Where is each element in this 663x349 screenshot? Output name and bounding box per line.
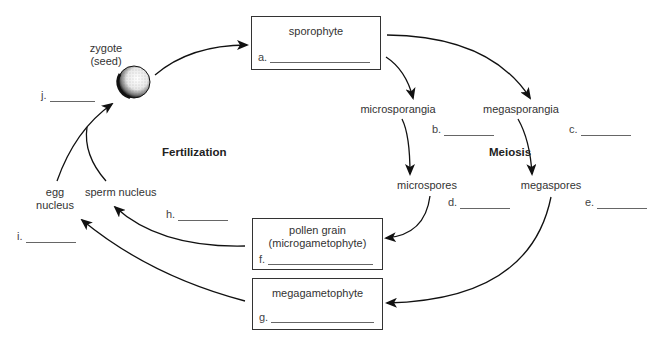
blank-letter-h: h. xyxy=(166,208,175,220)
answer-blank-i[interactable]: i. xyxy=(17,230,76,243)
pollen-grain-title: pollen grain xyxy=(253,224,382,237)
megasporangia-label: megasporangia xyxy=(483,103,559,116)
egg-nucleus-label: egg nucleus xyxy=(36,186,74,212)
sperm-nucleus-label: sperm nucleus xyxy=(85,186,157,199)
answer-line-d[interactable] xyxy=(460,198,510,209)
arrow-megagametophyte-to-egg xyxy=(82,220,245,301)
microsporangia-label: microsporangia xyxy=(360,103,435,116)
arrow-sperm-to-zygote xyxy=(86,127,106,181)
blank-letter-b: b. xyxy=(432,123,441,135)
arrow-sporophyte-to-megasporangia xyxy=(387,35,530,98)
arrow-sporophyte-to-microsporangia xyxy=(386,57,413,98)
answer-line-f[interactable] xyxy=(268,254,373,265)
megaspores-label: megaspores xyxy=(521,179,582,192)
answer-blank-e[interactable]: e. xyxy=(585,196,647,209)
answer-line-i[interactable] xyxy=(26,232,76,243)
answer-line-j[interactable] xyxy=(50,91,95,102)
answer-blank-j[interactable]: j. xyxy=(41,89,95,102)
blank-letter-a: a. xyxy=(258,51,267,63)
blank-letter-c: c. xyxy=(569,123,578,135)
megagametophyte-box: megagametophyte g. xyxy=(252,278,383,330)
pollen-grain-box: pollen grain (microgametophyte) f. xyxy=(252,218,383,270)
arrow-egg-to-zygote xyxy=(57,104,112,181)
answer-line-g[interactable] xyxy=(271,312,374,323)
answer-line-h[interactable] xyxy=(178,210,228,221)
answer-blank-h[interactable]: h. xyxy=(166,208,228,221)
arrow-microsporangia-to-microspores xyxy=(402,119,410,174)
meiosis-label: Meiosis xyxy=(489,146,531,159)
microgametophyte-subtitle: (microgametophyte) xyxy=(253,237,382,250)
sporophyte-box: sporophyte a. xyxy=(251,16,381,70)
answer-line-c[interactable] xyxy=(581,125,631,136)
answer-blank-c[interactable]: c. xyxy=(569,123,631,136)
egg-nucleus-line2: nucleus xyxy=(36,199,74,212)
blank-letter-i: i. xyxy=(17,230,23,242)
answer-blank-b[interactable]: b. xyxy=(432,123,494,136)
zygote-seed-icon xyxy=(118,66,150,98)
megagametophyte-title: megagametophyte xyxy=(253,287,382,300)
answer-blank-d[interactable]: d. xyxy=(448,196,510,209)
blank-letter-d: d. xyxy=(448,196,457,208)
answer-line-a[interactable] xyxy=(270,52,370,63)
zygote-label-line2: (seed) xyxy=(90,55,122,68)
blank-letter-j: j. xyxy=(41,89,47,101)
answer-line-b[interactable] xyxy=(444,125,494,136)
fertilization-label: Fertilization xyxy=(162,146,227,159)
sporophyte-title: sporophyte xyxy=(252,25,380,38)
zygote-label-line1: zygote xyxy=(90,42,122,55)
egg-nucleus-line1: egg xyxy=(36,186,74,199)
answer-blank-f[interactable]: f. xyxy=(259,253,373,265)
arrow-zygote-to-sporophyte xyxy=(155,45,247,75)
answer-blank-g[interactable]: g. xyxy=(259,311,374,323)
zygote-label: zygote (seed) xyxy=(90,42,122,68)
blank-letter-g: g. xyxy=(259,311,268,323)
answer-blank-a[interactable]: a. xyxy=(258,51,370,63)
blank-letter-f: f. xyxy=(259,253,265,265)
arrow-megaspores-to-megagametophyte xyxy=(387,197,551,303)
blank-letter-e: e. xyxy=(585,196,594,208)
answer-line-e[interactable] xyxy=(597,198,647,209)
microspores-label: microspores xyxy=(397,179,457,192)
arrow-microspores-to-pollen xyxy=(386,196,430,238)
